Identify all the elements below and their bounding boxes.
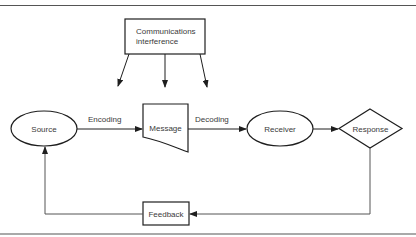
interference-arrow-left (118, 54, 129, 86)
receiver-node: Receiver (247, 111, 313, 146)
decoding-edge: Decoding (188, 115, 246, 129)
response-to-feedback-edge (190, 148, 370, 214)
interference-label-line1: Communications (136, 27, 196, 36)
receiver-label: Receiver (264, 125, 296, 134)
interference-arrows (118, 54, 207, 87)
source-node: Source (11, 111, 77, 146)
decoding-label: Decoding (195, 115, 229, 124)
interference-label-line2: interference (136, 37, 179, 46)
communication-diagram: Communications interference Source Encod… (0, 0, 416, 237)
feedback-node: Feedback (143, 202, 189, 225)
source-label: Source (31, 125, 57, 134)
message-label: Message (149, 124, 182, 133)
message-node: Message (143, 104, 188, 152)
feedback-to-source-edge (45, 147, 143, 214)
response-label: Response (352, 125, 389, 134)
feedback-label: Feedback (148, 210, 184, 219)
interference-node: Communications interference (125, 19, 205, 54)
interference-arrow-right (200, 54, 207, 87)
response-node: Response (339, 109, 402, 148)
encoding-label: Encoding (88, 115, 121, 124)
encoding-edge: Encoding (77, 115, 142, 129)
